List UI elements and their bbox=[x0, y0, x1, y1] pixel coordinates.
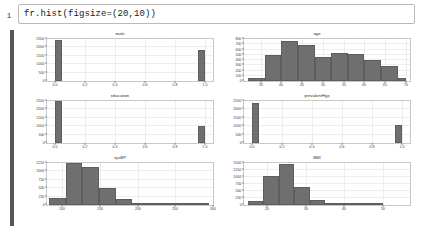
x-axis-tick-mark bbox=[305, 205, 306, 207]
x-axis-tick-mark bbox=[260, 81, 261, 83]
y-axis-tick-mark bbox=[242, 176, 244, 177]
histogram-bar bbox=[331, 53, 348, 81]
subplot-row-1: education 050010001500200025000.00.20.40… bbox=[18, 94, 421, 156]
x-axis-tick-label: 35 bbox=[259, 83, 263, 87]
y-axis-tick-mark bbox=[45, 116, 47, 117]
x-axis-tick-mark bbox=[281, 81, 282, 83]
plot-frame: 025050075010001250100150200250300 bbox=[46, 162, 214, 206]
y-axis-tick-label: 0 bbox=[240, 141, 242, 145]
y-axis-tick-mark bbox=[45, 178, 47, 179]
subplot-male: male 050010001500200025000.00.20.40.60.8… bbox=[22, 32, 218, 94]
x-axis-tick-label: 300 bbox=[210, 207, 216, 211]
y-axis-tick-mark bbox=[242, 183, 244, 184]
y-axis-tick-label: 2500 bbox=[37, 99, 45, 103]
y-axis-tick-label: 700 bbox=[236, 42, 242, 46]
y-axis-tick-mark bbox=[242, 53, 244, 54]
x-axis-tick-mark bbox=[84, 81, 85, 83]
notebook-cell-container: 1 fr.hist(figsize=(20,10)) male 05001000… bbox=[0, 0, 421, 235]
y-axis-tick-label: 0 bbox=[43, 79, 45, 83]
y-axis-tick-mark bbox=[242, 100, 244, 101]
histogram-bar bbox=[381, 66, 398, 81]
x-axis-tick-mark bbox=[175, 205, 176, 207]
y-axis-tick-mark bbox=[45, 187, 47, 188]
x-axis-tick-mark bbox=[54, 143, 55, 145]
histogram-bar bbox=[281, 41, 298, 81]
x-axis-tick-label: 0.2 bbox=[82, 145, 87, 149]
x-axis-tick-mark bbox=[251, 143, 252, 145]
histogram-bar bbox=[298, 45, 315, 81]
histogram-bar bbox=[182, 203, 209, 205]
x-axis-tick-label: 0.0 bbox=[52, 145, 57, 149]
x-axis-tick-mark bbox=[385, 81, 386, 83]
y-axis-tick-mark bbox=[45, 80, 47, 81]
histogram-bar bbox=[265, 55, 282, 81]
x-axis-tick-label: 1.0 bbox=[203, 145, 208, 149]
y-axis-tick-label: 500 bbox=[236, 132, 242, 136]
histogram-bars bbox=[244, 163, 410, 205]
y-axis-tick-mark bbox=[45, 142, 47, 143]
y-axis-tick-mark bbox=[45, 133, 47, 134]
histogram-bar bbox=[132, 203, 149, 205]
x-axis-tick-label: 60 bbox=[362, 83, 366, 87]
y-axis-tick-label: 1000 bbox=[37, 169, 45, 173]
y-axis-tick-mark bbox=[242, 197, 244, 198]
y-axis-tick-label: 2500 bbox=[37, 37, 45, 41]
y-axis-tick-label: 500 bbox=[236, 53, 242, 57]
x-axis-tick-label: 50 bbox=[321, 83, 325, 87]
y-axis-tick-label: 200 bbox=[236, 68, 242, 72]
x-axis-tick-label: 0.4 bbox=[309, 145, 314, 149]
y-axis-tick-mark bbox=[45, 54, 47, 55]
code-cell[interactable]: 1 fr.hist(figsize=(20,10)) bbox=[0, 4, 421, 30]
x-axis-tick-mark bbox=[213, 205, 214, 207]
histogram-bar bbox=[279, 164, 294, 205]
x-axis-tick-label: 100 bbox=[59, 207, 65, 211]
x-axis-tick-mark bbox=[382, 205, 383, 207]
x-axis-tick-mark bbox=[267, 205, 268, 207]
histogram-bar bbox=[364, 60, 381, 81]
histogram-bars bbox=[47, 39, 213, 81]
x-axis-tick-mark bbox=[372, 143, 373, 145]
x-axis-tick-mark bbox=[114, 143, 115, 145]
x-axis-tick-label: 40 bbox=[279, 83, 283, 87]
y-axis-tick-label: 500 bbox=[39, 132, 45, 136]
histogram-bar bbox=[315, 57, 332, 81]
x-axis-tick-label: 0.8 bbox=[173, 145, 178, 149]
x-axis-tick-mark bbox=[175, 143, 176, 145]
subplot-age: age 010020030040050060070080035404550556… bbox=[219, 32, 415, 94]
x-axis-tick-label: 0.8 bbox=[370, 145, 375, 149]
y-axis-tick-label: 500 bbox=[39, 186, 45, 190]
y-axis-tick-mark bbox=[242, 64, 244, 65]
y-axis-tick-mark bbox=[45, 108, 47, 109]
x-axis-tick-mark bbox=[364, 81, 365, 83]
y-axis-tick-label: 100 bbox=[236, 74, 242, 78]
y-axis-tick-label: 1500 bbox=[234, 161, 242, 165]
histogram-bar bbox=[252, 103, 260, 143]
y-axis-tick-label: 1000 bbox=[37, 124, 45, 128]
x-axis-tick-label: 45 bbox=[300, 83, 304, 87]
y-axis-tick-label: 1250 bbox=[234, 168, 242, 172]
histogram-bars bbox=[47, 101, 213, 143]
y-axis-tick-label: 500 bbox=[39, 70, 45, 74]
y-axis-tick-label: 2000 bbox=[37, 107, 45, 111]
y-axis-tick-mark bbox=[242, 43, 244, 44]
y-axis-tick-label: 1500 bbox=[37, 54, 45, 58]
y-axis-tick-label: 300 bbox=[236, 63, 242, 67]
x-axis-tick-label: 0.4 bbox=[112, 145, 117, 149]
x-axis-tick-mark bbox=[302, 81, 303, 83]
code-input-box[interactable]: fr.hist(figsize=(20,10)) bbox=[18, 4, 415, 24]
x-axis-tick-mark bbox=[402, 143, 403, 145]
histogram-bar bbox=[198, 126, 206, 143]
histogram-bar bbox=[198, 50, 206, 81]
histogram-bar bbox=[55, 101, 63, 143]
y-axis-tick-mark bbox=[45, 46, 47, 47]
y-axis-tick-mark bbox=[242, 69, 244, 70]
y-axis-tick-label: 1000 bbox=[37, 62, 45, 66]
histogram-bar bbox=[49, 198, 66, 205]
histogram-bar bbox=[248, 78, 265, 81]
y-axis-tick-mark bbox=[45, 71, 47, 72]
x-axis-tick-mark bbox=[99, 205, 100, 207]
y-axis-tick-label: 250 bbox=[39, 194, 45, 198]
x-axis-tick-mark bbox=[145, 81, 146, 83]
x-axis-tick-mark bbox=[84, 143, 85, 145]
x-axis-tick-label: 1.0 bbox=[400, 145, 405, 149]
